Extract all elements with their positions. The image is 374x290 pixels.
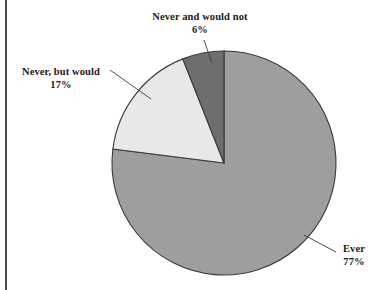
slice-label-ever-name: Ever [343, 243, 365, 254]
slice-label-never-and-would-not-name: Never and would not [152, 11, 247, 22]
pie-chart-canvas [0, 0, 374, 290]
slice-label-never-and-would-not: Never and would not 6% [146, 11, 254, 36]
slice-label-never-but-would-percent: 17% [12, 79, 110, 92]
pie-chart-figure: Never and would not 6% Never, but would … [0, 0, 374, 290]
slice-label-never-but-would: Never, but would 17% [12, 66, 110, 91]
slice-label-never-but-would-name: Never, but would [22, 66, 100, 77]
slice-label-never-and-would-not-percent: 6% [146, 24, 254, 37]
slice-label-ever-percent: 77% [337, 256, 371, 269]
leader-line-ever [304, 235, 336, 252]
slice-label-ever: Ever 77% [337, 243, 371, 268]
